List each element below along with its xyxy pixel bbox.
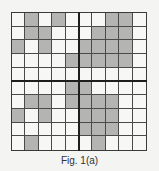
- grid-cell-filled: [25, 13, 38, 27]
- grid-cell-empty: [106, 136, 119, 150]
- grid-cell-filled: [92, 27, 105, 41]
- grid-cell-empty: [25, 40, 38, 54]
- grid-cell-empty: [52, 40, 65, 54]
- grid-cell-empty: [106, 81, 119, 95]
- grid-cell-empty: [133, 54, 146, 68]
- grid-cell-empty: [12, 13, 25, 27]
- grid-cell-empty: [119, 109, 132, 123]
- grid-cell-filled: [39, 40, 52, 54]
- grid-cell-filled: [12, 109, 25, 123]
- grid-cell-empty: [66, 123, 79, 137]
- grid-cell-filled: [92, 54, 105, 68]
- grid-cell-empty: [25, 54, 38, 68]
- grid-cell-filled: [66, 81, 79, 95]
- grid-cell-filled: [106, 95, 119, 109]
- grid-cell-empty: [119, 81, 132, 95]
- grid-cell-filled: [119, 54, 132, 68]
- grid-cell-empty: [52, 81, 65, 95]
- grid-cell-empty: [52, 54, 65, 68]
- grid-cell-filled: [39, 109, 52, 123]
- grid-cell-empty: [39, 13, 52, 27]
- grid-cell-filled: [12, 40, 25, 54]
- grid-cell-empty: [52, 95, 65, 109]
- grid-cell-empty: [79, 27, 92, 41]
- grid-cell-empty: [66, 136, 79, 150]
- grid-cell-filled: [92, 136, 105, 150]
- grid-cell-empty: [66, 40, 79, 54]
- grid-cell-empty: [119, 136, 132, 150]
- grid-cell-empty: [79, 13, 92, 27]
- grid-cell-filled: [106, 13, 119, 27]
- grid-cell-filled: [119, 40, 132, 54]
- grid-cell-empty: [12, 95, 25, 109]
- grid-cell-empty: [12, 123, 25, 137]
- grid-cell-filled: [92, 95, 105, 109]
- grid-cell-empty: [133, 123, 146, 137]
- grid-cell-empty: [39, 123, 52, 137]
- grid-cell-empty: [25, 123, 38, 137]
- grid-cell-empty: [92, 81, 105, 95]
- grid-cell-filled: [106, 123, 119, 137]
- grid-cell-filled: [79, 95, 92, 109]
- grid-cell-empty: [52, 109, 65, 123]
- grid-cell-filled: [79, 109, 92, 123]
- grid-cell-empty: [52, 27, 65, 41]
- grid-cell-empty: [12, 81, 25, 95]
- grid-cell-empty: [12, 27, 25, 41]
- grid-cell-empty: [79, 136, 92, 150]
- grid-cell-filled: [25, 27, 38, 41]
- grid-cell-empty: [119, 123, 132, 137]
- grid-cell-empty: [133, 81, 146, 95]
- grid-cell-empty: [133, 27, 146, 41]
- grid-cell-filled: [52, 13, 65, 27]
- grid-cell-empty: [12, 54, 25, 68]
- grid-cell-filled: [106, 54, 119, 68]
- grid-cell-filled: [106, 40, 119, 54]
- figure: Fig. 1(a): [0, 0, 159, 171]
- grid-cell-filled: [79, 123, 92, 137]
- grid-cell-filled: [92, 123, 105, 137]
- grid-cell-filled: [119, 13, 132, 27]
- grid-cell-empty: [39, 54, 52, 68]
- grid-cell-empty: [66, 13, 79, 27]
- grid-cell-empty: [133, 95, 146, 109]
- grid-cell-filled: [25, 95, 38, 109]
- grid-cell-filled: [79, 81, 92, 95]
- grid-cell-filled: [79, 54, 92, 68]
- grid-cell-empty: [133, 40, 146, 54]
- grid-cell-filled: [25, 136, 38, 150]
- grid-cell-empty: [52, 136, 65, 150]
- grid-cell-filled: [79, 40, 92, 54]
- grid-cell-empty: [92, 13, 105, 27]
- grid-cell-filled: [66, 95, 79, 109]
- grid-cell-empty: [25, 109, 38, 123]
- grid-cell-filled: [92, 109, 105, 123]
- grid-cell-empty: [66, 109, 79, 123]
- grid-cell-empty: [39, 136, 52, 150]
- grid-cell-filled: [39, 27, 52, 41]
- grid-cell-filled: [106, 27, 119, 41]
- grid-cell-empty: [119, 95, 132, 109]
- grid-cell-filled: [66, 54, 79, 68]
- horizontal-axis-line: [11, 80, 147, 82]
- grid-cell-empty: [39, 81, 52, 95]
- grid-cell-empty: [52, 123, 65, 137]
- grid-cell-filled: [106, 109, 119, 123]
- grid-cell-filled: [39, 95, 52, 109]
- grid-cell-empty: [133, 136, 146, 150]
- grid-cell-filled: [119, 27, 132, 41]
- figure-caption: Fig. 1(a): [0, 155, 159, 166]
- grid-cell-empty: [66, 27, 79, 41]
- grid-cell-empty: [133, 109, 146, 123]
- grid-cell-empty: [133, 13, 146, 27]
- grid-cell-filled: [92, 40, 105, 54]
- grid-cell-empty: [12, 136, 25, 150]
- grid-cell-empty: [25, 81, 38, 95]
